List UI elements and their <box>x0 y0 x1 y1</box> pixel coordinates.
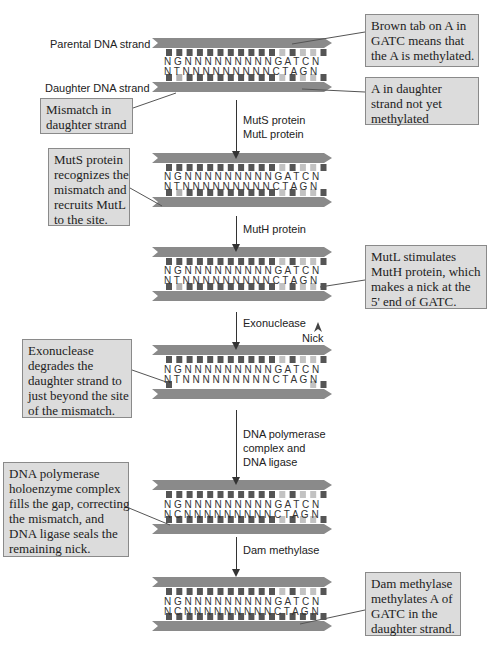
arrow-step-5 <box>236 537 237 575</box>
step-label-4: DNA polymerase complex and DNA ligase <box>243 427 326 469</box>
nick-label: Nick <box>302 332 323 344</box>
seq-bottom-4: N T N N N N N N N N N C T A G N <box>164 375 317 385</box>
step-line: Exonuclease <box>243 316 306 330</box>
step-label-1: MutS protein MutL protein <box>243 113 305 141</box>
seq-bottom-3: N T N N N N N N N N N C T A G N <box>164 276 317 286</box>
step-line: Dam methylase <box>243 543 319 557</box>
step-line: MutH protein <box>243 222 306 236</box>
step-label-2: MutH protein <box>243 222 306 236</box>
arrow-step-2 <box>236 216 237 250</box>
arrow-step-1 <box>236 100 237 157</box>
seq-bottom-6: N C N N N N N N N N N C T A G N <box>164 607 319 617</box>
step-label-5: Dam methylase <box>243 543 319 557</box>
step-line: DNA ligase <box>243 455 326 469</box>
seq-bottom-1: N T N N N N N N N N N C T A G N <box>164 67 317 77</box>
arrow-step-4 <box>236 410 237 483</box>
step-label-3: Exonuclease <box>243 316 306 330</box>
arrow-step-3 <box>236 312 237 348</box>
step-line: DNA polymerase <box>243 427 326 441</box>
seq-bottom-2: N T N N N N N N N N N C T A G N <box>164 182 317 192</box>
seq-bottom-5: N C N N N N N N N N N C T A G N <box>164 510 319 520</box>
step-line: complex and <box>243 441 326 455</box>
step-line: MutL protein <box>243 127 305 141</box>
step-line: MutS protein <box>243 113 305 127</box>
